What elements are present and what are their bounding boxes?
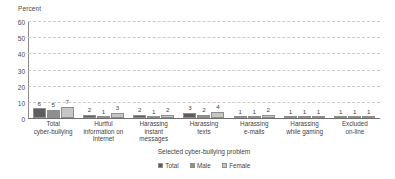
x-category-label-line: e-mails bbox=[230, 128, 278, 136]
y-tick-label: 60 bbox=[18, 19, 25, 26]
bar[interactable] bbox=[97, 116, 110, 118]
bar-wrap: 1 bbox=[234, 21, 247, 118]
bar-group: 213 bbox=[78, 21, 128, 118]
x-category-label-line: Harassing bbox=[130, 120, 178, 128]
bar-wrap: 4 bbox=[211, 21, 224, 118]
axis-baseline: 0 bbox=[28, 118, 380, 119]
x-category-label: Harassinginstantmessages bbox=[129, 120, 179, 143]
bar-value-label: 3 bbox=[188, 105, 191, 111]
x-category-label-line: messages bbox=[130, 135, 178, 143]
bar[interactable] bbox=[348, 116, 361, 118]
bar-group: 657 bbox=[28, 21, 78, 118]
y-tick-label: 20 bbox=[18, 83, 25, 90]
x-category-label-line: information on bbox=[79, 128, 127, 136]
bar-value-label: 2 bbox=[202, 107, 205, 113]
bar-wrap: 1 bbox=[147, 21, 160, 118]
bar[interactable] bbox=[33, 108, 46, 118]
bar[interactable] bbox=[248, 116, 261, 118]
bar-value-label: 7 bbox=[65, 99, 68, 105]
bar[interactable] bbox=[312, 116, 325, 118]
bar[interactable] bbox=[262, 115, 275, 118]
bar[interactable] bbox=[234, 116, 247, 118]
bar-value-label: 1 bbox=[253, 109, 256, 115]
bar-value-label: 2 bbox=[267, 107, 270, 113]
bar[interactable] bbox=[111, 113, 124, 118]
x-category-label-line: Harassing bbox=[230, 120, 278, 128]
bar-value-label: 1 bbox=[353, 109, 356, 115]
bar-wrap: 6 bbox=[33, 21, 46, 118]
bar-value-label: 1 bbox=[303, 109, 306, 115]
legend-label: Total bbox=[165, 162, 178, 169]
y-tick-label: 10 bbox=[18, 99, 25, 106]
x-category-label: Excludedon-line bbox=[330, 120, 380, 143]
legend-label: Male bbox=[197, 162, 211, 169]
y-tick-label: 0 bbox=[21, 116, 25, 123]
legend-swatch-icon bbox=[158, 163, 163, 168]
bar-wrap: 1 bbox=[298, 21, 311, 118]
x-category-label-line: Harassing bbox=[280, 120, 328, 128]
y-tick-label: 50 bbox=[18, 35, 25, 42]
bar-wrap: 2 bbox=[83, 21, 96, 118]
bar-group: 324 bbox=[179, 21, 229, 118]
x-axis-category-labels: Totalcyber-bullyingHurtfulinformation on… bbox=[28, 120, 380, 143]
bar-value-label: 2 bbox=[138, 107, 141, 113]
bar[interactable] bbox=[161, 115, 174, 118]
bar[interactable] bbox=[83, 115, 96, 118]
bar[interactable] bbox=[133, 115, 146, 118]
legend-item[interactable]: Total bbox=[158, 162, 179, 169]
bar-value-label: 1 bbox=[289, 109, 292, 115]
bar-wrap: 1 bbox=[97, 21, 110, 118]
bar-wrap: 1 bbox=[348, 21, 361, 118]
bar-value-label: 2 bbox=[88, 107, 91, 113]
bar-value-label: 1 bbox=[339, 109, 342, 115]
y-axis-title: Percent bbox=[18, 5, 41, 12]
bar-wrap: 2 bbox=[161, 21, 174, 118]
x-category-label-line: Harassing bbox=[180, 120, 228, 128]
bar-groups: 657213212324112111111 bbox=[28, 21, 380, 118]
bar[interactable] bbox=[183, 113, 196, 118]
bar-wrap: 1 bbox=[312, 21, 325, 118]
legend-swatch-icon bbox=[190, 163, 195, 168]
x-category-label: Harassingwhile gaming bbox=[279, 120, 329, 143]
x-category-label: Harassingtexts bbox=[179, 120, 229, 143]
legend-label: Female bbox=[229, 162, 250, 169]
cyber-bullying-bar-chart: Percent 6050403020100 657213212324112111… bbox=[0, 0, 395, 179]
bar-wrap: 3 bbox=[183, 21, 196, 118]
plot-area: 6050403020100 657213212324112111111 bbox=[28, 21, 380, 118]
bar-group: 112 bbox=[229, 21, 279, 118]
bar[interactable] bbox=[61, 107, 74, 118]
y-tick-label: 40 bbox=[18, 51, 25, 58]
legend-item[interactable]: Female bbox=[222, 162, 251, 169]
x-category-label-line: Hurtful bbox=[79, 120, 127, 128]
bar-wrap: 2 bbox=[262, 21, 275, 118]
bar[interactable] bbox=[47, 110, 60, 118]
x-category-label-line: Total bbox=[29, 120, 77, 128]
bar[interactable] bbox=[211, 112, 224, 118]
bar[interactable] bbox=[334, 116, 347, 118]
bar-wrap: 1 bbox=[362, 21, 375, 118]
x-category-label-line: Excluded bbox=[331, 120, 379, 128]
bar-value-label: 2 bbox=[166, 107, 169, 113]
bar-group: 111 bbox=[330, 21, 380, 118]
x-category-label-line: on-line bbox=[331, 128, 379, 136]
bar[interactable] bbox=[362, 116, 375, 118]
bar-value-label: 1 bbox=[239, 109, 242, 115]
x-category-label-line: Internet bbox=[79, 135, 127, 143]
bar[interactable] bbox=[298, 116, 311, 118]
bar-wrap: 2 bbox=[197, 21, 210, 118]
legend-item[interactable]: Male bbox=[190, 162, 211, 169]
bar[interactable] bbox=[147, 116, 160, 118]
bar-group: 212 bbox=[129, 21, 179, 118]
legend-swatch-icon bbox=[222, 163, 227, 168]
bar-wrap: 1 bbox=[284, 21, 297, 118]
bar[interactable] bbox=[197, 115, 210, 118]
y-tick-label: 30 bbox=[18, 67, 25, 74]
bar-wrap: 2 bbox=[133, 21, 146, 118]
bar-value-label: 6 bbox=[37, 101, 40, 107]
bar-value-label: 1 bbox=[367, 109, 370, 115]
bar-wrap: 1 bbox=[334, 21, 347, 118]
bar-value-label: 1 bbox=[152, 109, 155, 115]
bar-value-label: 1 bbox=[102, 109, 105, 115]
bar-wrap: 1 bbox=[248, 21, 261, 118]
bar[interactable] bbox=[284, 116, 297, 118]
